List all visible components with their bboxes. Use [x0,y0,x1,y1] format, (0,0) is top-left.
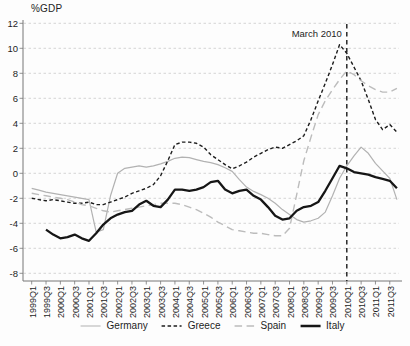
x-tick-label: 2005Q3 [214,286,224,318]
x-tick-label: 2010Q1 [343,286,353,318]
y-tick-label: -2 [10,193,18,204]
chart-legend: GermanyGreeceSpainItaly [80,320,345,331]
y-tick-label: -6 [10,243,18,254]
x-tick-label: 2010Q3 [357,286,367,318]
chart-canvas: 121086420-2-4-6-81999Q11999Q32000Q12000Q… [0,0,410,346]
y-tick-label: 0 [13,168,18,179]
y-tick-label: 12 [7,18,18,29]
legend-label-spain: Spain [261,320,287,331]
x-tick-label: 2005Q1 [200,286,210,318]
series-line-italy [46,166,397,241]
legend-item-greece: Greece [161,320,221,331]
x-tick-label: 2009Q1 [314,286,324,318]
legend-line-sample-greece [161,322,183,330]
x-tick-label: 2011Q3 [386,286,396,317]
x-tick-label: 2004Q3 [185,286,195,318]
x-tick-label: 1999Q3 [42,286,52,318]
series-line-spain [32,71,397,236]
x-tick-label: 2011Q1 [371,286,381,317]
legend-line-sample-germany [80,322,102,330]
y-tick-label: 2 [13,143,18,154]
legend-label-germany: Germany [107,320,148,331]
x-tick-label: 2007Q3 [271,286,281,318]
x-tick-label: 2007Q1 [257,286,267,318]
legend-label-italy: Italy [326,320,344,331]
legend-label-greece: Greece [188,320,221,331]
y-tick-label: 6 [13,93,18,104]
x-tick-label: 2000Q1 [56,286,66,318]
y-tick-label: -4 [10,218,18,229]
x-tick-label: 2006Q3 [243,286,253,318]
annotation-label: March 2010 [292,28,342,39]
y-tick-label: 8 [13,68,18,79]
x-tick-label: 2003Q1 [142,286,152,318]
x-tick-label: 2008Q3 [300,286,310,318]
x-tick-label: 2003Q3 [157,286,167,318]
legend-item-germany: Germany [80,320,148,331]
y-tick-label: 10 [7,43,18,54]
y-tick-label: -8 [10,268,18,279]
legend-item-italy: Italy [299,320,344,331]
legend-item-spain: Spain [234,320,287,331]
series-line-germany [32,147,397,232]
x-tick-label: 2001Q3 [99,286,109,318]
x-tick-label: 2004Q1 [171,286,181,318]
x-tick-label: 2002Q3 [128,286,138,318]
x-tick-label: 2008Q1 [286,286,296,318]
x-tick-label: 2002Q1 [114,286,124,318]
x-tick-label: 1999Q1 [28,286,38,318]
legend-line-sample-italy [299,322,321,330]
x-tick-label: 2009Q3 [328,286,338,318]
gdp-line-chart: %GDP 121086420-2-4-6-81999Q11999Q32000Q1… [0,0,410,346]
legend-line-sample-spain [234,322,256,330]
y-tick-label: 4 [13,118,18,129]
chart-title: %GDP [31,3,62,14]
x-tick-label: 2006Q1 [228,286,238,318]
x-tick-label: 2000Q3 [71,286,81,318]
x-tick-label: 2001Q1 [85,286,95,318]
